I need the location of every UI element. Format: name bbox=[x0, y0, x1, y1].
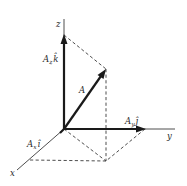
z-axis-label: z bbox=[55, 19, 61, 29]
dash-origin-to-base bbox=[64, 129, 106, 161]
x-axis-label: x bbox=[10, 168, 15, 178]
ax-label: Axî bbox=[26, 139, 42, 150]
dash-z-to-tip bbox=[64, 35, 106, 69]
vector-a-label: A bbox=[78, 85, 85, 95]
x-axis bbox=[17, 129, 64, 170]
ay-label: Ayĵ bbox=[124, 116, 140, 128]
az-label: Azk̂ bbox=[42, 52, 58, 64]
arrowhead-ay bbox=[136, 126, 146, 133]
y-axis-label: y bbox=[166, 131, 172, 141]
dash-y-to-base bbox=[106, 129, 145, 161]
vector-components-diagram: z y x A Azk̂ Ayĵ Axî bbox=[0, 0, 187, 186]
vector-a bbox=[64, 76, 101, 129]
dash-x-to-base bbox=[30, 160, 106, 161]
vector-ax bbox=[60, 129, 64, 133]
labels: z y x A Azk̂ Ayĵ Axî bbox=[10, 19, 172, 178]
axes bbox=[17, 19, 175, 170]
vectors bbox=[60, 34, 146, 133]
arrowhead-az bbox=[61, 34, 68, 44]
